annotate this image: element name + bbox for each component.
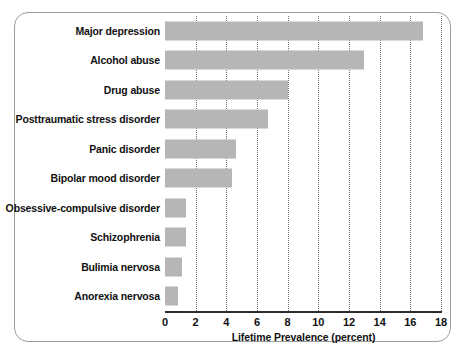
- category-label: Posttraumatic stress disorder: [0, 113, 160, 125]
- plot-area: Major depressionAlcohol abuseDrug abuseP…: [0, 0, 462, 357]
- bar: [165, 169, 232, 188]
- x-tick-label: 12: [334, 316, 364, 328]
- bar: [165, 257, 182, 276]
- chart-row: Alcohol abuse: [0, 46, 462, 76]
- bar: [165, 80, 288, 99]
- bar: [165, 287, 178, 306]
- x-tick-label: 16: [395, 316, 425, 328]
- bar: [165, 21, 423, 40]
- category-label: Anorexia nervosa: [0, 290, 160, 302]
- chart-row: Bulimia nervosa: [0, 252, 462, 282]
- category-label: Schizophrenia: [0, 231, 160, 243]
- chart-row: Panic disorder: [0, 134, 462, 164]
- chart-row: Obsessive-compulsive disorder: [0, 193, 462, 223]
- category-label: Drug abuse: [0, 84, 160, 96]
- category-label: Major depression: [0, 25, 160, 37]
- x-axis-line: [165, 311, 442, 313]
- x-tick-label: 0: [150, 316, 180, 328]
- bar: [165, 228, 186, 247]
- x-tick-label: 14: [365, 316, 395, 328]
- x-tick-label: 10: [303, 316, 333, 328]
- bar: [165, 110, 268, 129]
- chart-row: Major depression: [0, 16, 462, 46]
- x-axis-title: Lifetime Prevalence (percent): [165, 331, 442, 343]
- category-label: Alcohol abuse: [0, 54, 160, 66]
- chart-row: Drug abuse: [0, 75, 462, 105]
- x-tick-label: 18: [426, 316, 456, 328]
- bar: [165, 139, 236, 158]
- bar: [165, 51, 364, 70]
- x-tick-label: 6: [242, 316, 272, 328]
- category-label: Bipolar mood disorder: [0, 172, 160, 184]
- chart-row: Anorexia nervosa: [0, 282, 462, 312]
- chart-row: Schizophrenia: [0, 223, 462, 253]
- x-tick-label: 4: [211, 316, 241, 328]
- x-tick-label: 2: [181, 316, 211, 328]
- category-label: Bulimia nervosa: [0, 261, 160, 273]
- category-label: Panic disorder: [0, 143, 160, 155]
- chart-figure: Major depressionAlcohol abuseDrug abuseP…: [0, 0, 462, 357]
- category-label: Obsessive-compulsive disorder: [0, 202, 160, 214]
- x-tick-label: 8: [273, 316, 303, 328]
- chart-row: Bipolar mood disorder: [0, 164, 462, 194]
- chart-row: Posttraumatic stress disorder: [0, 105, 462, 135]
- bar: [165, 198, 186, 217]
